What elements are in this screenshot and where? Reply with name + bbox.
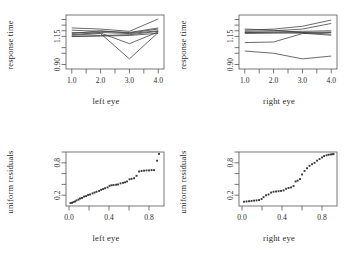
panel-bottom-left: uniform residuals left eye 0.00.40.80.20… — [0, 137, 173, 274]
data-point — [314, 162, 316, 164]
svg-text:2.0: 2.0 — [269, 76, 279, 85]
data-point — [146, 169, 148, 171]
data-point — [158, 153, 160, 155]
data-point — [120, 182, 122, 184]
data-point — [109, 185, 111, 187]
data-point — [243, 201, 245, 203]
data-point — [111, 184, 113, 186]
data-point — [104, 187, 106, 189]
svg-text:0.2: 0.2 — [53, 190, 62, 200]
data-point — [323, 155, 325, 157]
data-point — [275, 191, 277, 193]
data-point — [115, 184, 117, 186]
data-point — [153, 169, 155, 171]
figure-container: response time left eye 1.02.03.04.01.150… — [0, 0, 346, 274]
data-point — [321, 157, 323, 159]
data-point — [83, 196, 85, 198]
svg-text:0.8: 0.8 — [317, 213, 327, 222]
data-point — [98, 190, 100, 192]
svg-text:0.90: 0.90 — [226, 58, 235, 71]
series-line — [245, 32, 331, 42]
series-line — [72, 19, 158, 31]
svg-text:0.0: 0.0 — [64, 213, 74, 222]
data-point — [124, 181, 126, 183]
svg-text:2.0: 2.0 — [96, 76, 106, 85]
panel-top-right-ylabel: response time — [178, 13, 188, 77]
svg-text:0.90: 0.90 — [53, 58, 62, 71]
data-point — [293, 185, 295, 187]
data-point — [96, 191, 98, 193]
data-point — [136, 175, 138, 177]
data-point — [117, 184, 119, 186]
data-point — [100, 189, 102, 191]
data-point — [299, 178, 301, 180]
panel-top-left-xlabel: left eye — [46, 96, 166, 106]
data-point — [256, 199, 258, 201]
data-point — [311, 163, 313, 165]
panel-top-left: response time left eye 1.02.03.04.01.150… — [0, 0, 173, 137]
panel-bottom-right-ylabel: uniform residuals — [178, 145, 188, 219]
data-point — [265, 194, 267, 196]
data-point — [297, 180, 299, 182]
data-point — [133, 177, 135, 179]
data-point — [92, 192, 94, 194]
panel-bottom-left-plot: 0.00.40.80.20.8 — [0, 137, 173, 274]
svg-text:0.8: 0.8 — [226, 158, 235, 168]
svg-text:0.4: 0.4 — [104, 213, 114, 222]
panel-bottom-left-xlabel: left eye — [46, 233, 166, 243]
data-point — [246, 201, 248, 203]
panel-bottom-right-xlabel: right eye — [219, 233, 339, 243]
data-point — [89, 193, 91, 195]
data-point — [151, 169, 153, 171]
panel-top-right-plot: 1.02.03.04.01.150.90 — [173, 0, 346, 137]
data-point — [295, 181, 297, 183]
svg-text:0.8: 0.8 — [144, 213, 154, 222]
svg-text:0.4: 0.4 — [277, 213, 287, 222]
data-point — [141, 170, 143, 172]
svg-text:4.0: 4.0 — [153, 76, 163, 85]
data-point — [122, 182, 124, 184]
data-point — [79, 198, 81, 200]
data-point — [328, 154, 330, 156]
svg-text:3.0: 3.0 — [125, 76, 135, 85]
data-point — [143, 170, 145, 172]
data-point — [258, 199, 260, 201]
data-point — [268, 193, 270, 195]
data-point — [290, 186, 292, 188]
data-point — [261, 198, 263, 200]
svg-text:1.15: 1.15 — [53, 30, 62, 43]
data-point — [304, 170, 306, 172]
svg-text:0.2: 0.2 — [226, 190, 235, 200]
data-point — [270, 192, 272, 194]
panel-top-left-ylabel: response time — [5, 13, 15, 77]
data-point — [283, 189, 285, 191]
data-point — [81, 197, 83, 199]
panel-top-left-plot: 1.02.03.04.01.150.90 — [0, 0, 173, 137]
svg-text:1.0: 1.0 — [240, 76, 250, 85]
svg-text:3.0: 3.0 — [298, 76, 308, 85]
data-point — [306, 167, 308, 169]
data-point — [76, 199, 78, 201]
data-point — [278, 190, 280, 192]
data-point — [156, 160, 158, 162]
data-point — [288, 187, 290, 189]
series-line — [245, 51, 331, 59]
panel-bottom-right-plot: 0.00.40.80.20.8 — [173, 137, 346, 274]
data-point — [148, 169, 150, 171]
data-point — [94, 192, 96, 194]
svg-text:0.0: 0.0 — [237, 213, 247, 222]
svg-text:1.0: 1.0 — [67, 76, 77, 85]
data-point — [113, 184, 115, 186]
svg-text:0.8: 0.8 — [53, 158, 62, 168]
data-point — [316, 160, 318, 162]
data-point — [253, 200, 255, 202]
data-point — [273, 191, 275, 193]
data-point — [285, 188, 287, 190]
data-point — [129, 178, 131, 180]
panel-bottom-right: uniform residuals right eye 0.00.40.80.2… — [173, 137, 346, 274]
data-point — [319, 158, 321, 160]
data-point — [107, 186, 109, 188]
panel-top-right: response time right eye 1.02.03.04.01.15… — [173, 0, 346, 137]
data-point — [251, 200, 253, 202]
data-point — [138, 171, 140, 173]
